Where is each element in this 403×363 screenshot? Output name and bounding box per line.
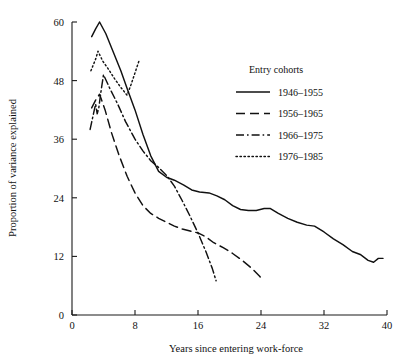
x-tick-label: 24 [256,320,267,331]
y-tick-label: 12 [54,251,65,262]
y-tick-label: 36 [54,134,65,145]
x-tick-label: 16 [193,320,204,331]
variance-explained-line-chart: 0816243240 01224364860 Years since enter… [0,0,403,363]
y-axis-ticks: 01224364860 [54,17,78,321]
legend-item-label: 1976–1985 [278,151,323,162]
legend-title: Entry cohorts [249,64,303,75]
y-tick-label: 48 [54,76,65,87]
y-tick-label: 60 [54,17,65,28]
legend: Entry cohorts 1946–19551956–19651966–197… [236,64,323,162]
x-axis-ticks: 0816243240 [69,310,392,331]
x-tick-label: 40 [382,320,393,331]
x-tick-label: 8 [132,320,137,331]
series-line [92,94,264,281]
legend-item-label: 1946–1955 [278,87,323,98]
legend-item-label: 1966–1975 [278,130,323,141]
y-tick-label: 24 [54,193,65,204]
x-tick-label: 32 [319,320,330,331]
series-line [92,22,383,262]
legend-item-label: 1956–1965 [278,108,323,119]
x-axis-title: Years since entering work-force [169,343,303,354]
x-tick-label: 0 [69,320,74,331]
series-line [90,75,216,281]
data-series-group [90,22,383,281]
y-tick-label: 0 [59,310,64,321]
y-axis-title: Proportion of variance explained [7,98,18,237]
